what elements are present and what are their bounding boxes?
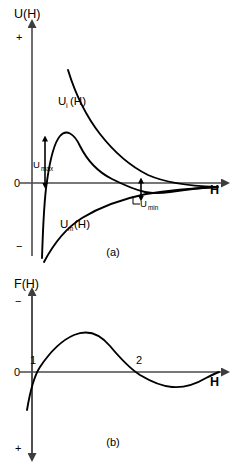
panel-a-plus-sign: + bbox=[16, 31, 22, 43]
panel-b: F(H) − + 0 H 1 2 (b) bbox=[14, 277, 222, 454]
label-um: U m (H) bbox=[60, 218, 90, 232]
umax-label-base: U bbox=[33, 159, 40, 170]
panel-b-minus-sign: − bbox=[15, 295, 21, 307]
curve-repulsive-ui bbox=[68, 70, 216, 187]
panel-b-zero-label: 0 bbox=[14, 366, 20, 378]
label-ui: U i (H) bbox=[58, 95, 86, 110]
figure-container: U(H) + − 0 H U i (H) U m (H) U max bbox=[0, 0, 242, 465]
caption-b: (b) bbox=[106, 436, 119, 448]
panel-a-minus-sign: − bbox=[16, 240, 22, 252]
panel-b-plus-sign: + bbox=[15, 442, 21, 454]
panel-a-zero-label: 0 bbox=[14, 177, 20, 189]
umax-label-subscript: max bbox=[41, 165, 54, 172]
panel-b-x-axis-title: H bbox=[210, 375, 219, 389]
panel-b-mark-1: 1 bbox=[30, 354, 36, 366]
label-um-subscript: m bbox=[68, 225, 73, 232]
umin-label-subscript: min bbox=[148, 204, 159, 211]
panel-b-mark-2: 2 bbox=[136, 354, 142, 366]
panel-a-y-axis-title: U(H) bbox=[14, 7, 40, 21]
label-ui-subscript: i bbox=[66, 101, 68, 110]
figure-svg: U(H) + − 0 H U i (H) U m (H) U max bbox=[0, 0, 242, 465]
panel-a-x-axis-title: H bbox=[210, 183, 219, 197]
caption-a: (a) bbox=[106, 246, 119, 258]
label-ui-tail: (H) bbox=[70, 95, 86, 107]
panel-a: U(H) + − 0 H U i (H) U m (H) U max bbox=[14, 7, 222, 262]
umin-label-base: U bbox=[140, 198, 147, 209]
curve-total-potential bbox=[42, 133, 216, 258]
label-um-tail: (H) bbox=[74, 218, 90, 230]
panel-b-y-axis-title: F(H) bbox=[14, 277, 39, 291]
